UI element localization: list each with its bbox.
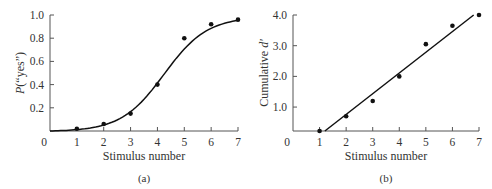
x-tick-label: 5 xyxy=(181,136,187,148)
data-point xyxy=(450,23,455,28)
data-point xyxy=(236,17,241,22)
chart-panel-b: 1.02.03.04.001234567Stimulus number(b)Cu… xyxy=(257,9,482,185)
x-tick-label: 0 xyxy=(41,136,47,148)
x-tick-label: 5 xyxy=(423,136,429,148)
x-tick-label: 6 xyxy=(450,136,456,148)
data-point xyxy=(317,129,322,134)
data-point xyxy=(128,111,133,116)
data-point xyxy=(370,99,375,104)
x-tick-label: 7 xyxy=(235,136,241,148)
data-point xyxy=(101,122,106,127)
chart-panel-a: 0.20.40.60.81.001234567Stimulus number(a… xyxy=(13,9,241,185)
x-tick-label: 2 xyxy=(101,136,107,148)
figure: 0.20.40.60.81.001234567Stimulus number(a… xyxy=(0,0,492,189)
fitted-line xyxy=(325,15,474,131)
panel-label: (b) xyxy=(380,172,393,185)
x-tick-label: 1 xyxy=(317,136,323,148)
x-tick-label: 2 xyxy=(343,136,349,148)
y-axis-title: P(“yes”) xyxy=(13,52,27,95)
data-point xyxy=(209,22,214,27)
y-tick-label: 2.0 xyxy=(273,70,288,82)
x-tick-label: 1 xyxy=(74,136,80,148)
y-axis-title: Cumulative d′ xyxy=(257,39,271,107)
y-tick-label: 0.8 xyxy=(30,32,45,44)
fitted-curve xyxy=(50,20,238,131)
x-axis-title: Stimulus number xyxy=(345,149,427,163)
data-point xyxy=(397,74,402,79)
data-point xyxy=(182,36,187,41)
x-tick-label: 4 xyxy=(155,136,161,148)
x-tick-label: 4 xyxy=(396,136,402,148)
y-tick-label: 1.0 xyxy=(273,101,288,113)
y-tick-label: 3.0 xyxy=(273,40,288,52)
panel-label: (a) xyxy=(138,172,151,185)
y-tick-label: 1.0 xyxy=(30,9,45,21)
data-point xyxy=(424,42,429,47)
x-tick-label: 3 xyxy=(128,136,134,148)
x-tick-label: 0 xyxy=(284,136,290,148)
data-point xyxy=(75,126,80,131)
data-point xyxy=(477,13,482,18)
x-tick-label: 3 xyxy=(370,136,376,148)
x-axis-title: Stimulus number xyxy=(103,149,185,163)
x-tick-label: 6 xyxy=(208,136,214,148)
y-tick-label: 0.2 xyxy=(30,102,45,114)
y-tick-label: 0.4 xyxy=(30,79,45,91)
data-point xyxy=(344,114,349,119)
y-tick-label: 0.6 xyxy=(30,55,45,67)
x-tick-label: 7 xyxy=(476,136,482,148)
y-tick-label: 4.0 xyxy=(273,9,288,21)
data-point xyxy=(155,82,160,87)
